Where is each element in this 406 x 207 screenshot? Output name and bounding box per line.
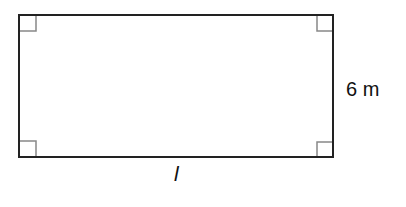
right-angle-mark-top-right [317, 16, 332, 31]
right-angle-mark-bottom-right [317, 142, 332, 156]
right-angle-mark-top-left [20, 16, 36, 31]
length-variable-label: l [174, 162, 179, 186]
rectangle-outline [19, 15, 333, 157]
right-angle-marks [20, 16, 332, 156]
right-angle-mark-bottom-left [20, 141, 36, 156]
side-length-label: 6 m [346, 78, 379, 101]
rectangle-diagram [0, 0, 406, 207]
